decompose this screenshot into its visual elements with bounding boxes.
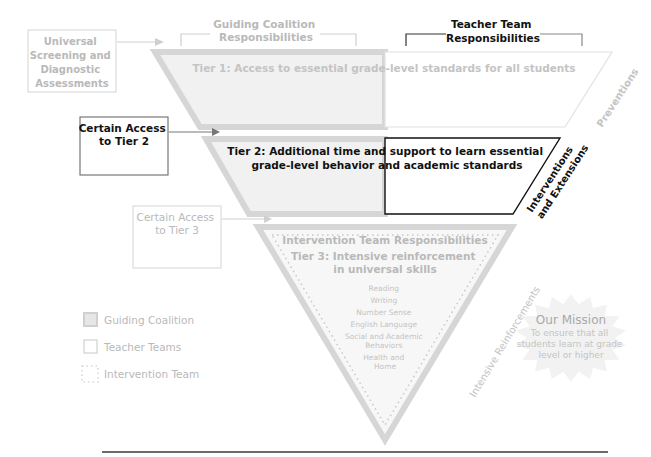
legend-label: Guiding Coalition: [104, 314, 194, 326]
tier2-line-1: Tier 2: Additional time and support to l…: [227, 145, 543, 157]
tier1-band: Tier 1: Access to essential grade-level …: [155, 52, 612, 127]
tier3-title-line-2: in universal skills: [333, 263, 436, 275]
universal-line-2: Screening and: [30, 50, 111, 61]
certain-access-tier3-box: Certain Access to Tier 3: [133, 206, 221, 268]
legend-item-intervention-team: Intervention Team: [82, 366, 199, 382]
teacher-header-line-1: Teacher Team: [451, 18, 532, 30]
svg-text:Guiding Coalition Respon: Guiding Coalition Responsibilities: [213, 18, 319, 43]
tier3-title-line-1: Tier 3: Intensive reinforcement: [291, 250, 476, 262]
tier3-access-line-1: Certain Access: [137, 211, 215, 223]
tier3-triangle: Intervention Team Responsibilities Tier …: [258, 227, 512, 440]
universal-screening-box: Universal Screening and Diagnostic Asses…: [28, 30, 116, 92]
starburst-icon: [516, 294, 626, 381]
mission-title: Our Mission: [536, 313, 606, 327]
bottom-divider: [102, 451, 608, 453]
universal-line-1: Universal: [44, 36, 97, 47]
tier2-line-2: grade-level behavior and academic standa…: [252, 159, 523, 171]
gray-filled-square-icon: [84, 313, 97, 326]
tier3-header: Intervention Team Responsibilities: [282, 234, 488, 246]
legend-label: Intervention Team: [104, 368, 199, 380]
legend-item-guiding-coalition: Guiding Coalition: [84, 313, 194, 326]
tier1-label: Tier 1: Access to essential grade-level …: [192, 62, 575, 74]
guiding-header-line-2: Responsibilities: [219, 31, 313, 43]
guiding-coalition-header: Guiding Coalition Responsibilities: [181, 18, 356, 46]
guiding-header-line-1: Guiding Coalition: [213, 18, 315, 30]
tier2-band: Tier 2: Additional time and support to l…: [206, 138, 560, 214]
legend: Guiding Coalition Teacher Teams Interven…: [82, 313, 199, 382]
tier2-access-line-2: to Tier 2: [99, 135, 149, 147]
rti-pyramid-diagram: Universal Screening and Diagnostic Asses…: [0, 0, 651, 457]
universal-arrow: [117, 38, 164, 46]
certain-access-tier2-box: Certain Access to Tier 2: [79, 117, 170, 175]
mission-badge: Our Mission To ensure that all students …: [516, 294, 626, 381]
tier3-access-line-2: to Tier 3: [155, 224, 199, 236]
teacher-header-line-2: Responsibilities: [446, 32, 540, 44]
legend-item-teacher-teams: Teacher Teams: [84, 340, 181, 353]
outline-square-icon: [84, 340, 97, 353]
universal-line-4: Assessments: [35, 78, 108, 89]
svg-text:Teacher Team Responsibil: Teacher Team Responsibilities: [446, 18, 540, 44]
preventions-label: Preventions: [594, 66, 640, 129]
tier2-arrow: [169, 128, 220, 136]
legend-label: Teacher Teams: [103, 341, 181, 353]
teacher-team-header: Teacher Team Responsibilities: [406, 18, 582, 46]
universal-line-3: Diagnostic: [40, 64, 100, 75]
dotted-square-icon: [82, 366, 98, 382]
tier2-access-line-1: Certain Access: [79, 122, 166, 134]
